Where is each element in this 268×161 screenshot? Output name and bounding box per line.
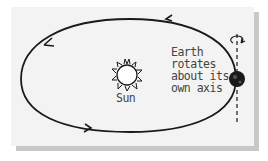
arrow-top-right-icon xyxy=(166,15,172,21)
sun-label: Sun xyxy=(116,92,135,104)
rotation-arrow-icon xyxy=(231,36,245,43)
sun-icon xyxy=(112,59,142,91)
earth-label-line-4: own axis xyxy=(171,82,229,94)
earth-rotation-label: Earth rotates about its own axis xyxy=(171,46,229,94)
earth-icon xyxy=(229,71,245,87)
